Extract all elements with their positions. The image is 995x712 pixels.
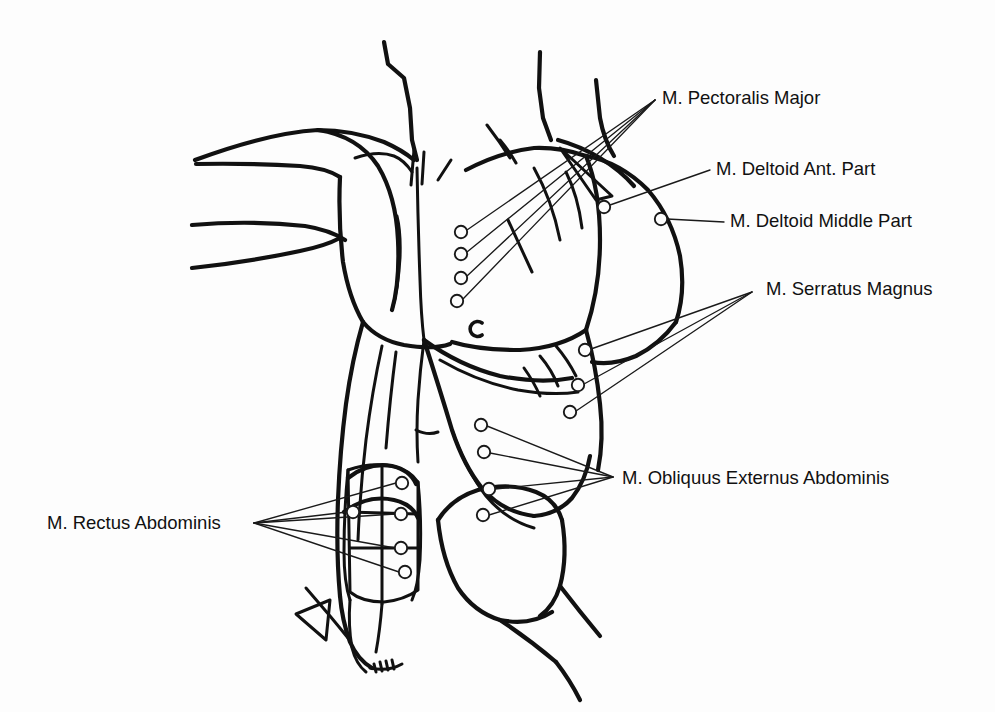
electrode-marker-rectus-5[interactable] (399, 566, 411, 578)
sternum-midline (417, 168, 424, 340)
clavicle-left (195, 130, 414, 160)
electrode-marker-pectoralis-4[interactable] (451, 295, 463, 307)
electrode-marker-serratus-1[interactable] (579, 344, 591, 356)
electrode-marker-deltoid-ant-1[interactable] (598, 201, 610, 213)
neck-tendon-left (411, 150, 414, 185)
flank-left-inner-2 (386, 352, 396, 448)
serratus-digit-2 (556, 346, 576, 376)
pec-right-upper-fold (534, 168, 560, 240)
muscle-label-pectoralis-major: M. Pectoralis Major (662, 87, 820, 108)
muscle-label-deltoid-middle-part: M. Deltoid Middle Part (730, 210, 912, 231)
thigh-right-edge (556, 662, 580, 700)
pec-left-lower (363, 322, 450, 347)
leader-serratus-1 (591, 292, 752, 349)
leader-obliquus-1 (487, 426, 613, 477)
electrode-marker-obliquus-4[interactable] (477, 509, 489, 521)
electrode-marker-layer (347, 201, 667, 578)
leader-rectus-4 (254, 523, 395, 548)
electrode-marker-serratus-3[interactable] (564, 406, 576, 418)
electrode-marker-pectoralis-3[interactable] (455, 272, 467, 284)
groin-line-right (560, 586, 600, 636)
hip-flank-outline (438, 520, 552, 622)
sternal-notch-dip (355, 153, 412, 172)
linea-alba-lower (376, 604, 382, 652)
inguinal-line (500, 620, 556, 662)
leader-pectoralis-1 (467, 100, 655, 230)
electrode-marker-rectus-1[interactable] (396, 477, 408, 489)
electrode-marker-pectoralis-1[interactable] (455, 226, 467, 238)
nipple-mark-layer (470, 322, 482, 337)
trapezius-right (487, 125, 510, 158)
leader-rectus-1 (254, 483, 396, 523)
electrode-marker-rectus-2[interactable] (347, 506, 359, 518)
muscle-label-rectus-abdominis: M. Rectus Abdominis (47, 512, 221, 533)
leader-rectus-3 (254, 514, 395, 523)
electrode-marker-obliquus-1[interactable] (475, 419, 487, 431)
leader-deltoid-mid (667, 219, 724, 222)
arm-left-mid-contour (192, 223, 345, 240)
abdomen-center-fold (417, 340, 424, 462)
neck-tendon-right (422, 152, 424, 184)
umbilicus-region (416, 430, 438, 434)
pec-right-inner-fold (508, 220, 532, 272)
leader-obliquus-2 (490, 453, 613, 477)
anatomical-diagram-svg: Anterior trunk muscle surface electrode … (0, 0, 995, 712)
neck-right-edge (539, 52, 551, 140)
electrode-marker-serratus-2[interactable] (572, 379, 584, 391)
electrode-marker-rectus-4[interactable] (395, 542, 407, 554)
nipple-mark (470, 322, 482, 337)
anatomical-figure-root: Anterior trunk muscle surface electrode … (0, 0, 995, 712)
muscle-label-deltoid-anterior-part: M. Deltoid Ant. Part (716, 158, 875, 179)
arm-left-upper-contour (196, 164, 340, 177)
neck-fold-right (438, 160, 451, 180)
muscle-label-serratus-magnus: M. Serratus Magnus (766, 278, 933, 299)
electrode-marker-deltoid-mid-1[interactable] (655, 213, 667, 225)
electrode-marker-obliquus-2[interactable] (478, 446, 490, 458)
muscle-label-obliquus-externus-abdominis: M. Obliquus Externus Abdominis (622, 467, 889, 488)
electrode-marker-pectoralis-2[interactable] (455, 248, 467, 260)
electrode-marker-obliquus-3[interactable] (483, 483, 495, 495)
pec-left-lateral (339, 177, 363, 322)
leader-serratus-2 (584, 292, 752, 384)
electrode-marker-rectus-3[interactable] (395, 508, 407, 520)
arm-left-lower-contour (192, 238, 340, 268)
hip-flank-right (540, 520, 565, 616)
leader-serratus-3 (576, 292, 752, 411)
leader-pectoralis-3 (467, 100, 655, 276)
muscle-label-layer: M. Pectoralis MajorM. Deltoid Ant. PartM… (47, 87, 933, 533)
iliac-wedge-left (296, 600, 330, 640)
